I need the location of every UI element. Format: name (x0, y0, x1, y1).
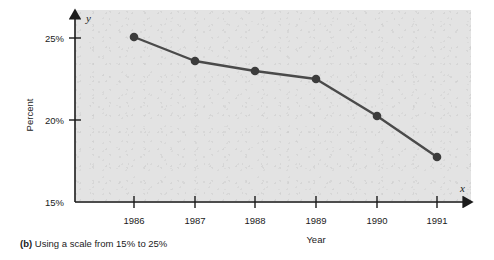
x-tick-label-1989: 1989 (305, 215, 326, 226)
x-axis-title: Year (306, 234, 325, 245)
data-line-percent (134, 37, 437, 157)
data-point-1988 (251, 67, 260, 76)
figure-caption-text: Using a scale from 15% to 25% (35, 238, 168, 249)
figure: 25% 20% 15% 1986 1987 1988 1989 1990 199… (0, 0, 494, 260)
figure-caption: (b) Using a scale from 15% to 25% (20, 238, 167, 249)
data-point-1990 (373, 112, 382, 121)
data-point-1986 (130, 33, 139, 42)
x-axis-variable-label: x (459, 182, 465, 194)
y-tick-label-25: 25% (45, 33, 65, 44)
y-axis-title: Percent (24, 98, 35, 131)
x-tick-label-1986: 1986 (123, 215, 144, 226)
data-point-1989 (312, 75, 321, 84)
x-tick-label-1990: 1990 (366, 215, 387, 226)
x-tick-label-1991: 1991 (426, 215, 447, 226)
data-point-1987 (191, 57, 200, 66)
x-tick-label-1988: 1988 (244, 215, 265, 226)
y-tick-label-20: 20% (45, 115, 65, 126)
x-tick-label-1987: 1987 (184, 215, 205, 226)
figure-caption-label: (b) (20, 238, 32, 249)
line-chart: 25% 20% 15% 1986 1987 1988 1989 1990 199… (0, 0, 494, 260)
y-axis-variable-label: y (85, 12, 91, 24)
data-point-1991 (433, 153, 442, 162)
y-tick-label-15: 15% (45, 197, 65, 208)
